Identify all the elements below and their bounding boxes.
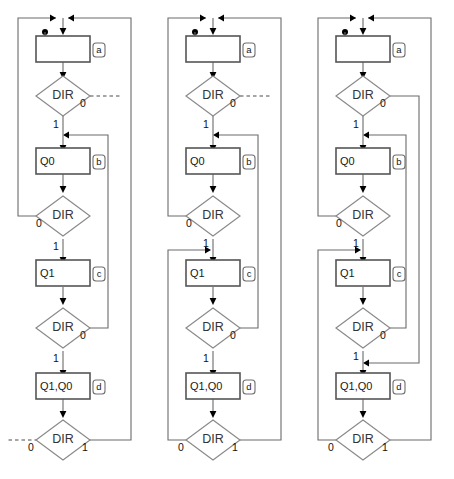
arrowhead-dir3-in-c2 <box>210 298 217 305</box>
arrowhead-dir4-in-c1 <box>60 411 67 418</box>
decision-label-dir3-c2: DIR <box>202 320 224 334</box>
arrowhead-a-in-c3 <box>360 28 367 35</box>
badge-label-b-c1: b <box>96 156 101 167</box>
branch-label-dir3-right-c1: 0 <box>80 329 86 341</box>
badge-label-c-c1: c <box>97 268 102 279</box>
badge-label-a-c3: a <box>396 44 402 55</box>
branch-label-dir3-down-c2: 1 <box>203 352 209 364</box>
process-label-c-c1: Q1 <box>40 267 55 279</box>
branch-label-dir1-right-c1: 0 <box>80 97 86 109</box>
arrowhead-dir3-zero-c1 <box>63 132 69 139</box>
decision-label-dir2-c2: DIR <box>202 208 224 222</box>
branch-label-dir3-down-c1: 1 <box>53 352 59 364</box>
badge-label-b-c3: b <box>396 156 401 167</box>
process-label-c-c2: Q1 <box>190 267 205 279</box>
process-label-d-c2: Q1,Q0 <box>190 380 222 392</box>
branch-label-dir1-right-c3: 0 <box>380 97 386 109</box>
decision-label-dir1-c2: DIR <box>202 88 224 102</box>
branch-label-dir4-left-c2: 0 <box>178 441 184 453</box>
arrowhead-dir3-in-c3 <box>360 298 367 305</box>
branch-label-dir2-left-c1: 0 <box>36 217 42 229</box>
badge-label-c-c3: c <box>397 268 402 279</box>
arrowhead-dir3-in-c1 <box>60 298 67 305</box>
branch-label-dir1-down-c2: 1 <box>203 118 209 130</box>
badge-label-d-c1: d <box>96 381 101 392</box>
branch-label-dir1-right-c2: 0 <box>230 97 236 109</box>
flowchart-diagram: a DIR 0 1 Q0 b DIR 0 1 Q1 c DIR 0 1 Q1,Q… <box>0 0 454 479</box>
arrowhead-dir4-in-c3 <box>360 411 367 418</box>
arrowhead-dir4-in-c2 <box>210 411 217 418</box>
arrowhead-outer-loop-c2 <box>218 15 224 22</box>
arrowhead-outer-loop-c3 <box>368 15 374 22</box>
column-2: a DIR 0 1 Q0 b DIR 0 1 Q1 c DIR 0 1 Q1,Q… <box>168 15 281 460</box>
arrowhead-outer-loop-c1 <box>68 15 74 22</box>
badge-label-a-c2: a <box>246 44 252 55</box>
branch-label-dir2-down-c2: 1 <box>203 237 209 249</box>
branch-label-dir3-down-c3: 1 <box>353 350 359 362</box>
process-label-c-c3: Q1 <box>340 267 355 279</box>
branch-label-dir2-down-c1: 1 <box>53 240 59 252</box>
badge-label-c-c2: c <box>247 268 252 279</box>
process-label-d-c1: Q1,Q0 <box>40 380 72 392</box>
arrowhead-left-loop-c3 <box>350 15 356 22</box>
column-1: a DIR 0 1 Q0 b DIR 0 1 Q1 c DIR 0 1 Q1,Q… <box>8 15 131 460</box>
decision-label-dir1-c1: DIR <box>52 88 74 102</box>
branch-label-dir4-right-c1: 1 <box>82 441 88 453</box>
process-label-d-c3: Q1,Q0 <box>340 380 372 392</box>
arrowhead-dir2-in-c3 <box>360 186 367 193</box>
branch-label-dir4-left-c3: 0 <box>328 441 334 453</box>
decision-label-dir2-c1: DIR <box>52 208 74 222</box>
decision-label-dir4-c1: DIR <box>52 432 74 446</box>
decision-label-dir3-c3: DIR <box>352 320 374 334</box>
badge-label-d-c2: d <box>246 381 251 392</box>
branch-label-dir4-right-c3: 1 <box>382 441 388 453</box>
column-3: a DIR 0 1 Q0 b DIR 0 1 Q1 c DIR 0 1 Q1,Q… <box>318 15 431 460</box>
arrowhead-left-loop-c2 <box>200 15 206 22</box>
process-label-b-c3: Q0 <box>340 155 355 167</box>
arrowhead-dir2-in-c2 <box>210 186 217 193</box>
branch-label-dir2-left-c2: 0 <box>186 217 192 229</box>
decision-label-dir4-c3: DIR <box>352 432 374 446</box>
arrowhead-dir1-zero-loop-c3 <box>363 360 369 367</box>
badge-label-b-c2: b <box>246 156 251 167</box>
branch-label-dir3-right-c2: 0 <box>230 329 236 341</box>
process-box-a-c1[interactable] <box>36 36 90 62</box>
branch-label-dir1-down-c1: 1 <box>53 118 59 130</box>
badge-label-d-c3: d <box>396 381 401 392</box>
decision-label-dir3-c1: DIR <box>52 320 74 334</box>
arrowhead-dir3-zero-c3 <box>363 132 369 139</box>
process-box-a-c3[interactable] <box>336 36 390 62</box>
branch-label-dir2-down-c3: 1 <box>353 237 359 249</box>
branch-label-dir4-left-c1: 0 <box>28 441 34 453</box>
decision-label-dir4-c2: DIR <box>202 432 224 446</box>
branch-label-dir4-right-c2: 1 <box>232 441 238 453</box>
arrowhead-dir3-zero-c2 <box>213 132 219 139</box>
process-label-b-c1: Q0 <box>40 155 55 167</box>
branch-label-dir2-left-c3: 0 <box>336 217 342 229</box>
arrowhead-a-in-c2 <box>210 28 217 35</box>
arrowhead-left-loop-c1 <box>50 15 56 22</box>
process-box-a-c2[interactable] <box>186 36 240 62</box>
process-label-b-c2: Q0 <box>190 155 205 167</box>
arrowhead-dir2-in-c1 <box>60 186 67 193</box>
flowchart-canvas: a DIR 0 1 Q0 b DIR 0 1 Q1 c DIR 0 1 Q1,Q… <box>0 0 454 479</box>
badge-label-a-c1: a <box>96 44 102 55</box>
decision-label-dir2-c3: DIR <box>352 208 374 222</box>
arrowhead-a-in-c1 <box>60 28 67 35</box>
branch-label-dir1-down-c3: 1 <box>353 118 359 130</box>
branch-label-dir3-right-c3: 0 <box>380 329 386 341</box>
decision-label-dir1-c3: DIR <box>352 88 374 102</box>
